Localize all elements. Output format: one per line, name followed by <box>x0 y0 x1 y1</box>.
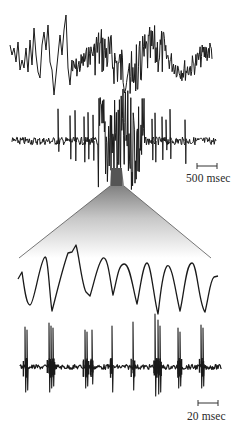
raw-trace-top <box>10 15 212 95</box>
neural-recording-figure <box>0 0 240 432</box>
scale-label-20ms: 20 msec <box>187 410 226 422</box>
zoom-funnel <box>19 168 211 258</box>
scale-bar-500ms <box>197 163 217 169</box>
scale-label-500ms: 500 msec <box>186 172 231 184</box>
expanded-spikes <box>20 314 222 396</box>
scale-bar-20ms <box>198 400 218 406</box>
